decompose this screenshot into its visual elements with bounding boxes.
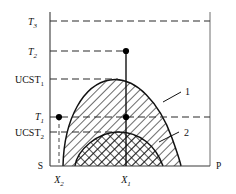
y-tick-label-ucst2: UCST2	[15, 127, 45, 141]
x-tick-label-x2: X2	[53, 174, 64, 188]
y-tick-ucst2-sub: 2	[41, 133, 45, 141]
y-tick-t1-sub: 1	[41, 117, 45, 125]
y-tick-label-ucst1: UCST1	[15, 74, 45, 88]
y-tick-ucst1-sub: 1	[41, 80, 45, 88]
svg-text:UCST1: UCST1	[15, 74, 45, 88]
marker-t1-x2	[56, 114, 62, 120]
origin-label-s: S	[38, 161, 43, 171]
curve-1-label: 1	[185, 86, 190, 97]
x-tick-x2-sub: 2	[60, 180, 64, 188]
y-tick-ucst1-text: UCST	[15, 74, 41, 85]
marker-t1-x1	[123, 114, 129, 120]
svg-text:T3: T3	[28, 16, 38, 30]
svg-text:UCST2: UCST2	[15, 127, 45, 141]
y-tick-t2-sub: 2	[34, 52, 38, 60]
x-tick-x1-sub: 1	[127, 180, 131, 188]
y-tick-ucst2-text: UCST	[15, 127, 41, 138]
svg-text:T2: T2	[28, 46, 38, 60]
leader-line-curve-1	[163, 92, 181, 102]
y-tick-label-t3: T3	[28, 16, 38, 30]
svg-text:T1: T1	[35, 111, 44, 125]
marker-t2-x1	[123, 48, 129, 54]
svg-text:X2: X2	[53, 174, 64, 188]
right-end-label-p: P	[216, 161, 221, 171]
curve-2-label: 2	[184, 127, 189, 138]
phase-diagram-figure: 1 2 T3 T2 UCST1 T1 UCST2	[0, 0, 236, 194]
x-tick-label-x1: X1	[120, 174, 131, 188]
svg-text:X1: X1	[120, 174, 131, 188]
y-tick-t3-sub: 3	[33, 22, 38, 30]
y-tick-label-t1: T1	[35, 111, 44, 125]
y-tick-label-t2: T2	[28, 46, 38, 60]
phase-diagram-svg: 1 2 T3 T2 UCST1 T1 UCST2	[0, 0, 236, 194]
